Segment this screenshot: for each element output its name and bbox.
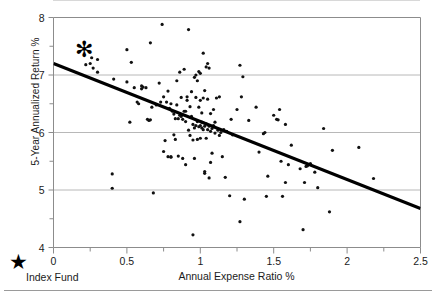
data-point	[212, 108, 215, 111]
data-point	[241, 75, 244, 78]
data-point	[172, 133, 175, 136]
data-point	[177, 154, 180, 157]
data-point	[169, 102, 172, 105]
data-point	[169, 155, 172, 158]
data-point	[128, 121, 131, 124]
data-point	[177, 117, 180, 120]
data-point	[111, 172, 114, 175]
x-tick-label-1.5: 1.5	[266, 255, 281, 267]
data-point	[144, 86, 147, 89]
data-point	[161, 23, 164, 26]
data-point	[166, 155, 169, 158]
data-point	[213, 121, 216, 124]
data-point	[247, 119, 250, 122]
data-point	[206, 128, 209, 131]
data-point	[208, 176, 211, 179]
data-point	[265, 195, 268, 198]
data-point	[213, 131, 216, 134]
data-point	[218, 134, 221, 137]
data-point	[206, 62, 209, 65]
data-point	[203, 172, 206, 175]
data-point	[224, 176, 227, 179]
data-point	[166, 90, 169, 93]
data-point	[96, 71, 99, 74]
y-tick-labels: 45678	[39, 12, 45, 254]
data-point	[199, 72, 202, 75]
data-point	[133, 86, 136, 89]
data-point	[152, 191, 155, 194]
data-point	[175, 79, 178, 82]
data-point	[96, 58, 99, 61]
gridlines	[54, 75, 421, 190]
data-point	[92, 67, 95, 70]
data-point	[194, 124, 197, 127]
data-point	[221, 155, 224, 158]
x-tick-label-1: 1	[197, 255, 203, 267]
data-point	[240, 95, 243, 98]
data-point	[162, 150, 165, 153]
data-point	[331, 149, 334, 152]
data-point	[190, 90, 193, 93]
data-point	[303, 181, 306, 184]
data-point	[279, 160, 282, 163]
y-tick-label-7: 7	[39, 69, 45, 81]
data-point	[137, 102, 140, 105]
data-point	[184, 120, 187, 123]
data-point	[191, 123, 194, 126]
data-point	[149, 41, 152, 44]
data-point	[243, 198, 246, 201]
data-point	[193, 157, 196, 160]
data-point	[196, 79, 199, 82]
data-point	[149, 118, 152, 121]
y-tick-label-8: 8	[39, 12, 45, 24]
data-point	[203, 89, 206, 92]
data-point	[281, 195, 284, 198]
data-point	[206, 98, 209, 101]
data-point	[187, 28, 190, 31]
data-point	[197, 106, 200, 109]
data-point	[185, 99, 188, 102]
scatter-points	[84, 23, 375, 237]
x-axis-title: Annual Expense Ratio %	[53, 270, 420, 282]
data-point	[165, 100, 168, 103]
trend-line	[54, 64, 421, 209]
data-point	[238, 64, 241, 67]
data-point	[178, 71, 181, 74]
data-point	[196, 138, 199, 141]
x-tick-label-0.5: 0.5	[120, 255, 135, 267]
data-point	[111, 187, 114, 190]
data-point	[199, 137, 202, 140]
data-point	[125, 48, 128, 51]
index-fund-star-icon: ★	[9, 252, 28, 273]
data-point	[150, 106, 153, 109]
data-point	[266, 175, 269, 178]
data-point	[191, 138, 194, 141]
x-tick-label-2.5: 2.5	[413, 255, 428, 267]
data-point	[301, 228, 304, 231]
data-point	[200, 111, 203, 114]
data-point	[313, 171, 316, 174]
data-point	[187, 129, 190, 132]
data-point	[130, 61, 133, 64]
data-point	[180, 96, 183, 99]
data-point	[322, 127, 325, 130]
scatter-plot: 4567800.511.522.5✻	[0, 0, 436, 299]
data-point	[174, 117, 177, 120]
data-point	[89, 62, 92, 65]
data-point	[112, 77, 115, 80]
data-point	[199, 99, 202, 102]
data-point	[290, 144, 293, 147]
data-point	[215, 96, 218, 99]
data-point	[372, 177, 375, 180]
data-point	[278, 108, 281, 111]
data-point	[159, 100, 162, 103]
data-point	[188, 105, 191, 108]
data-point	[183, 68, 186, 71]
data-point	[194, 96, 197, 99]
y-tick-label-4: 4	[39, 242, 45, 254]
data-point	[202, 96, 205, 99]
data-point	[238, 220, 241, 223]
data-point	[181, 118, 184, 121]
x-tick-label-2: 2	[344, 255, 350, 267]
data-point	[188, 134, 191, 137]
